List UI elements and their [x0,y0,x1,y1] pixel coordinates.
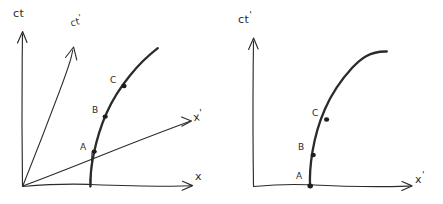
right-x-prime-mark: ' [422,169,425,180]
left-ct-axis-line [22,34,23,186]
right-panel-group [249,38,412,191]
right-x-prime-axis-line [254,184,412,186]
right-point-c-label: C [312,109,318,118]
right-worldline-curve [310,51,387,186]
left-ct-axis-label: ct [13,8,24,19]
figure-root: ct ct' x x' A B C ct' x' A B C [0,0,443,204]
right-point-a-dot [307,184,313,189]
left-x-prime-axis-arrowhead [182,117,192,126]
left-point-a-label: A [80,143,86,152]
right-ct-prime-axis-line [253,41,254,186]
right-point-c-dot [324,117,329,121]
right-x-prime-axis-label: x' [415,170,425,185]
left-x-prime-axis-line [23,121,190,186]
left-worldline-curve [90,48,158,186]
left-x-prime-axis-label: x' [192,107,203,123]
left-point-c-dot [121,84,126,88]
left-point-b-dot [103,114,108,118]
right-point-b-label: B [298,143,304,152]
left-x-axis-label: x [195,171,202,182]
left-point-b-label: B [92,106,98,115]
left-point-c-label: C [110,76,116,85]
right-ct-prime-axis-label: ct' [238,10,252,25]
left-panel-group [18,32,193,191]
left-ct-prime-axis-label: ct' [69,14,83,28]
right-point-b-dot [311,153,316,157]
right-ct-prime-mark: ' [249,9,252,20]
left-ct-prime-axis-line [23,50,73,186]
left-x-axis-line [23,184,192,186]
right-point-a-label: A [296,172,302,181]
left-point-a-dot [92,149,97,153]
sketch-canvas [0,0,443,204]
